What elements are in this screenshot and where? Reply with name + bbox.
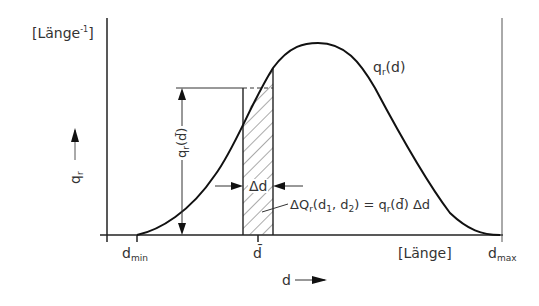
d-bar-label: d̄ xyxy=(253,246,262,260)
y-unit-close: ] xyxy=(88,25,93,41)
arrow-up-icon xyxy=(178,88,186,100)
formula-rest: ) = q xyxy=(354,197,386,212)
d-min-base: d xyxy=(122,245,131,261)
distribution-diagram xyxy=(0,0,539,306)
curve-arg: (d) xyxy=(386,59,406,75)
y-axis-var: q xyxy=(67,175,83,184)
arrow-down-icon xyxy=(178,223,186,235)
y-axis-sub: r xyxy=(75,171,85,175)
d-min-label: dmin xyxy=(122,246,148,263)
formula-prefix: ΔQ xyxy=(290,197,309,212)
d-min-sub: min xyxy=(131,253,148,263)
formula-args: (d xyxy=(313,197,326,212)
d-max-base: d xyxy=(488,245,497,261)
formula-end: (d̄) Δd xyxy=(390,197,430,212)
y-axis-label: qr xyxy=(68,171,85,184)
arrow-right-icon xyxy=(231,182,243,190)
y-unit-exponent: -1 xyxy=(80,25,88,34)
curve-label: qr(d) xyxy=(373,60,405,77)
height-label: qr(d̄) xyxy=(175,126,191,160)
y-unit-text: [Länge xyxy=(32,25,80,41)
x-axis-label: d xyxy=(282,273,291,287)
d-max-label: dmax xyxy=(488,246,517,263)
area-formula: ΔQr(d1, d2) = qr(d̄) Δd xyxy=(290,198,430,214)
arrow-left-icon xyxy=(273,182,285,190)
height-var: q xyxy=(174,150,189,158)
x-direction-arrow-icon xyxy=(312,276,327,284)
formula-sep: , d xyxy=(332,197,349,212)
curve-var: q xyxy=(373,59,382,75)
height-sub: r xyxy=(181,146,191,150)
delta-d-label: Δd xyxy=(248,179,268,193)
y-unit-label: [Länge-1] xyxy=(32,26,94,40)
y-direction-arrow-icon xyxy=(71,128,79,142)
height-arg: (d̄) xyxy=(174,128,189,146)
d-max-sub: max xyxy=(497,253,517,263)
x-unit-label: [Länge] xyxy=(398,246,452,260)
